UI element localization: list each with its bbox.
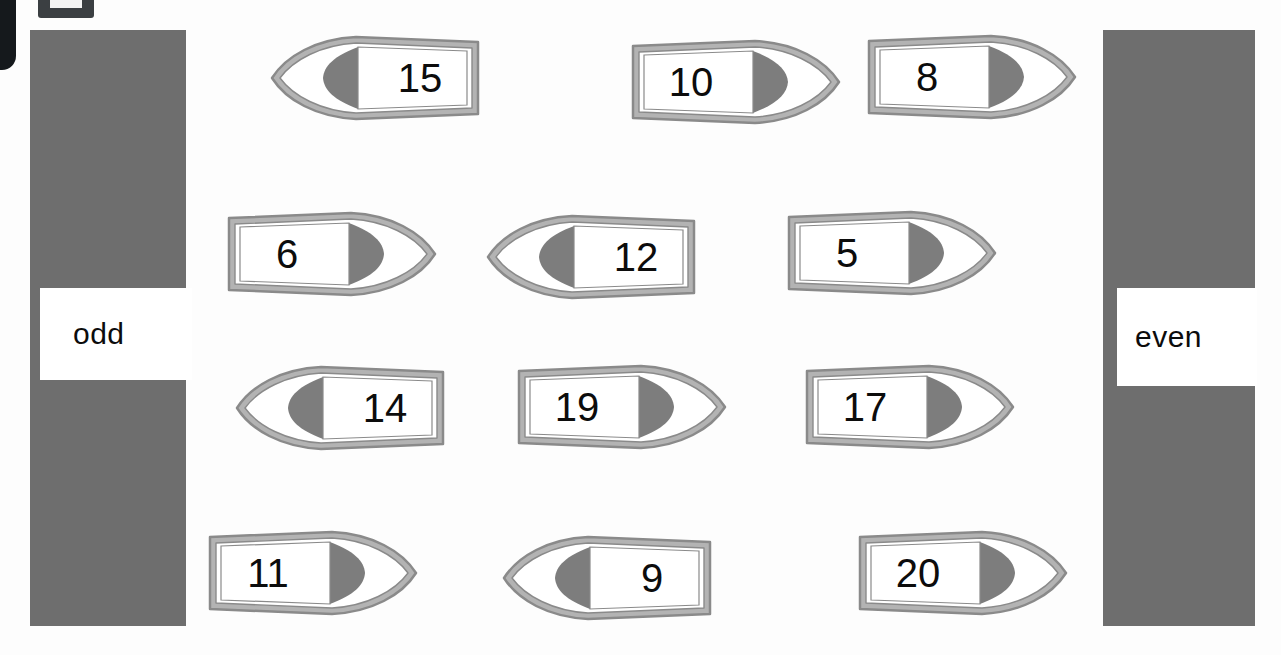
boat-number-panel	[644, 51, 753, 113]
boat-number-panel	[818, 376, 927, 438]
boat-number-panel	[240, 223, 349, 285]
boat-card[interactable]: 10	[627, 36, 843, 128]
boat-number-panel	[530, 376, 639, 438]
boat-number-panel	[871, 542, 980, 604]
boat-card[interactable]: 19	[513, 361, 729, 453]
scan-tab-inner-icon	[50, 0, 82, 8]
boat-shape-icon	[863, 31, 1079, 123]
boat-card[interactable]: 12	[484, 211, 700, 303]
boat-card[interactable]: 17	[801, 361, 1017, 453]
boat-shape-icon	[500, 532, 716, 624]
boat-card[interactable]: 6	[223, 208, 439, 300]
boat-shape-icon	[854, 527, 1070, 619]
boat-shape-icon	[223, 208, 439, 300]
boat-shape-icon	[204, 527, 420, 619]
boat-shape-icon	[513, 361, 729, 453]
boat-card[interactable]: 20	[854, 527, 1070, 619]
boat-shape-icon	[783, 207, 999, 299]
boat-number-panel	[590, 547, 699, 609]
worksheet-canvas: odd even 15108612514191711920	[0, 0, 1281, 655]
sort-label-odd: odd	[40, 288, 192, 380]
boat-number-panel	[574, 226, 683, 288]
scan-artifact-icon	[0, 0, 16, 70]
sort-label-even: even	[1117, 288, 1257, 386]
boat-number-panel	[323, 377, 432, 439]
boat-number-panel	[358, 47, 467, 109]
boat-card[interactable]: 8	[863, 31, 1079, 123]
boat-number-panel	[800, 222, 909, 284]
boat-number-panel	[880, 46, 989, 108]
boat-card[interactable]: 11	[204, 527, 420, 619]
boat-shape-icon	[801, 361, 1017, 453]
boat-card[interactable]: 5	[783, 207, 999, 299]
boat-shape-icon	[268, 32, 484, 124]
boat-shape-icon	[233, 362, 449, 454]
boat-card[interactable]: 14	[233, 362, 449, 454]
boat-shape-icon	[627, 36, 843, 128]
boat-number-panel	[221, 542, 330, 604]
boat-card[interactable]: 15	[268, 32, 484, 124]
boat-card[interactable]: 9	[500, 532, 716, 624]
boat-shape-icon	[484, 211, 700, 303]
